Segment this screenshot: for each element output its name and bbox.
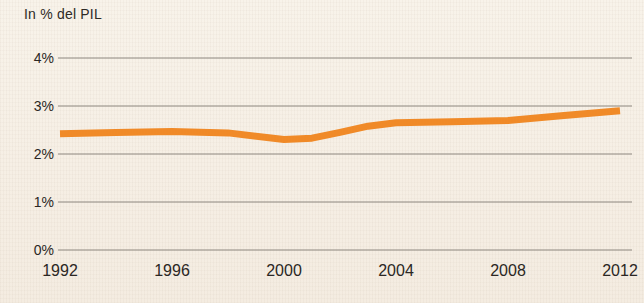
data-line-plot [0, 0, 644, 303]
data-series-line [60, 111, 620, 140]
line-chart: In % del PIL 0%1%2%3%4% 1992199620002004… [0, 0, 644, 303]
